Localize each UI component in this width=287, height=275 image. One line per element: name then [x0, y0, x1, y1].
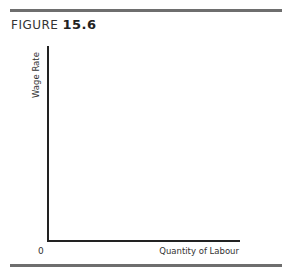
x-axis: [47, 240, 240, 242]
y-axis: [47, 46, 49, 242]
figure-number: 15.6: [62, 17, 96, 32]
figure-title: FIGURE15.6: [11, 17, 97, 32]
x-axis-label: Quantity of Labour: [159, 246, 239, 256]
top-rule: [10, 9, 282, 12]
figure-label: FIGURE: [11, 18, 58, 32]
y-axis-label: Wage Rate: [31, 52, 41, 98]
bottom-rule: [10, 264, 282, 267]
origin-label: 0: [38, 246, 44, 256]
